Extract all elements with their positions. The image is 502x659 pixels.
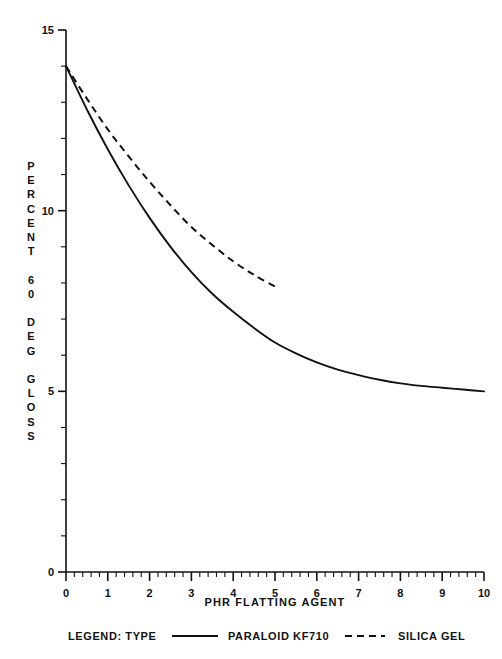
- x-tick-label: 0: [63, 587, 69, 599]
- x-tick-label: 7: [356, 587, 362, 599]
- y-axis-title-char: N: [27, 231, 35, 243]
- y-axis-title-char: D: [27, 316, 35, 328]
- y-axis-title-char: S: [27, 430, 34, 442]
- y-axis-title-char: R: [27, 188, 35, 200]
- y-axis-title-char: E: [27, 217, 34, 229]
- x-axis-title: PHR FLATTING AGENT: [205, 596, 346, 608]
- y-tick-label: 0: [48, 566, 54, 578]
- y-axis-title-char: 6: [28, 274, 34, 286]
- y-tick-label: 5: [48, 385, 54, 397]
- legend-entry-label-1: SILICA GEL: [398, 630, 465, 642]
- gloss-vs-flatting-agent-line-chart: 051015 012345678910 PHR FLATTING AGENT P…: [0, 0, 502, 659]
- y-axis-title-char: P: [27, 160, 34, 172]
- y-axis-title-char: 0: [28, 288, 34, 300]
- x-tick-label: 3: [188, 587, 194, 599]
- legend-entry-label-0: PARALOID KF710: [228, 630, 329, 642]
- y-axis-title-char: G: [27, 345, 36, 357]
- y-axis-title-char: S: [27, 416, 34, 428]
- y-axis-title-char: E: [27, 174, 34, 186]
- y-tick-label: 10: [42, 205, 54, 217]
- y-axis-title-char: C: [27, 203, 35, 215]
- x-tick-label: 2: [147, 587, 153, 599]
- chart-legend: LEGEND: TYPE PARALOID KF710 SILICA GEL: [68, 630, 465, 642]
- chart-background: [0, 0, 502, 659]
- x-tick-label: 1: [105, 587, 111, 599]
- y-tick-label: 15: [42, 24, 54, 36]
- chart-figure: 051015 012345678910 PHR FLATTING AGENT P…: [0, 0, 502, 659]
- legend-title: LEGEND: TYPE: [68, 630, 157, 642]
- x-tick-label: 9: [439, 587, 445, 599]
- y-axis-title-char: O: [27, 401, 36, 413]
- y-axis-title-char: L: [28, 387, 35, 399]
- x-tick-label: 8: [397, 587, 403, 599]
- y-axis-title-char: G: [27, 373, 36, 385]
- x-tick-label: 10: [478, 587, 490, 599]
- y-axis-title-char: T: [28, 245, 35, 257]
- y-axis-title-char: E: [27, 330, 34, 342]
